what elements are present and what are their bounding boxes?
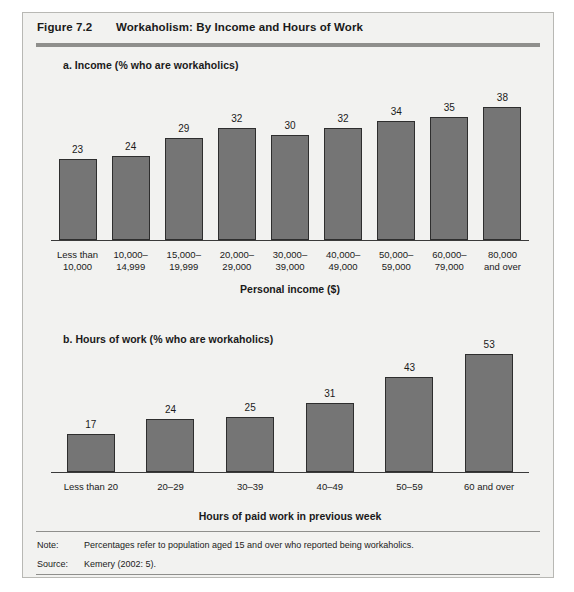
bar xyxy=(59,159,97,240)
bar xyxy=(165,138,203,240)
panel-a-axis-title: Personal income ($) xyxy=(51,283,529,295)
axis-tick-label: 40,000–49,000 xyxy=(326,249,360,272)
bar xyxy=(324,128,362,240)
source-label: Source: xyxy=(37,559,68,569)
footer-rule-top xyxy=(36,531,540,532)
bar-slot: 23 xyxy=(51,82,104,240)
bar xyxy=(218,128,256,240)
figure-header: Figure 7.2 Workaholism: By Income and Ho… xyxy=(23,13,553,47)
panel-a-baseline xyxy=(51,240,529,242)
panel-b-plot: 172425314353 xyxy=(51,331,529,473)
bar xyxy=(226,417,274,472)
bar xyxy=(112,156,150,240)
bar-value-label: 30 xyxy=(284,120,295,131)
panel-b-baseline xyxy=(51,472,529,474)
header-rule xyxy=(36,43,540,47)
bar xyxy=(306,403,354,472)
figure-container: Figure 7.2 Workaholism: By Income and Ho… xyxy=(22,12,554,578)
figure-number: Figure 7.2 xyxy=(37,21,92,33)
axis-tick-label: Less than10,000 xyxy=(57,249,98,272)
bar-slot: 43 xyxy=(370,330,450,472)
axis-tick-label: 15,000–19,999 xyxy=(167,249,201,272)
bar-slot: 24 xyxy=(131,330,211,472)
axis-tick-label: 60,000–79,000 xyxy=(432,249,466,272)
bar-value-label: 53 xyxy=(484,339,495,350)
axis-tick-label: 20–29 xyxy=(157,481,183,493)
panel-a-title: a. Income (% who are workaholics) xyxy=(63,59,239,71)
bar-value-label: 32 xyxy=(231,113,242,124)
bar xyxy=(465,354,513,472)
axis-tick-label: 30,000–39,000 xyxy=(273,249,307,272)
bar xyxy=(271,135,309,240)
axis-tick-label: Less than 20 xyxy=(64,481,118,493)
axis-tick-label: 60 and over xyxy=(464,481,514,493)
axis-tick-label: 30–39 xyxy=(237,481,263,493)
bar xyxy=(385,377,433,472)
bar-value-label: 43 xyxy=(404,362,415,373)
bar xyxy=(430,117,468,240)
bar-slot: 35 xyxy=(423,82,476,240)
panel-b-axis-title: Hours of paid work in previous week xyxy=(51,510,529,522)
bar-slot: 25 xyxy=(210,330,290,472)
note-label: Note: xyxy=(37,540,59,550)
bar-value-label: 17 xyxy=(85,419,96,430)
bar-slot: 38 xyxy=(476,82,529,240)
bar xyxy=(146,419,194,472)
bar-value-label: 25 xyxy=(245,402,256,413)
bar-slot: 29 xyxy=(157,82,210,240)
bar-value-label: 23 xyxy=(72,144,83,155)
figure-title: Workaholism: By Income and Hours of Work xyxy=(116,21,363,33)
bar-value-label: 24 xyxy=(165,404,176,415)
source-text: Kemery (2002: 5). xyxy=(84,559,156,569)
bar-value-label: 29 xyxy=(178,123,189,134)
panel-a-plot: 232429323032343538 xyxy=(51,83,529,241)
bar-value-label: 24 xyxy=(125,141,136,152)
footer-rule-bottom xyxy=(36,574,540,575)
note-text: Percentages refer to population aged 15 … xyxy=(84,540,414,550)
bar-slot: 17 xyxy=(51,330,131,472)
bar-slot: 34 xyxy=(370,82,423,240)
bar-slot: 31 xyxy=(290,330,370,472)
axis-tick-label: 10,000–14,999 xyxy=(113,249,147,272)
bar xyxy=(377,121,415,240)
bar-value-label: 35 xyxy=(444,102,455,113)
bar-value-label: 38 xyxy=(497,92,508,103)
axis-tick-label: 40–49 xyxy=(317,481,343,493)
bar-value-label: 32 xyxy=(338,113,349,124)
bar-slot: 32 xyxy=(317,82,370,240)
bar-value-label: 34 xyxy=(391,106,402,117)
bar-slot: 24 xyxy=(104,82,157,240)
bar-value-label: 31 xyxy=(324,388,335,399)
bar-slot: 53 xyxy=(449,330,529,472)
axis-tick-label: 20,000–29,000 xyxy=(220,249,254,272)
axis-tick-label: 80,000and over xyxy=(484,249,521,272)
bar xyxy=(67,434,115,472)
bar-slot: 32 xyxy=(210,82,263,240)
bar xyxy=(483,107,521,240)
axis-tick-label: 50,000–59,000 xyxy=(379,249,413,272)
axis-tick-label: 50–59 xyxy=(396,481,422,493)
bar-slot: 30 xyxy=(263,82,316,240)
